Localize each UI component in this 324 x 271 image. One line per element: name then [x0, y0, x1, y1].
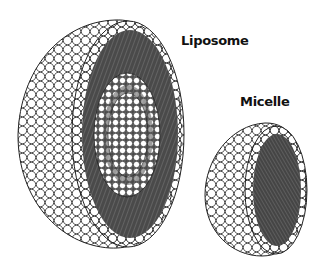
micelle-illustration	[205, 123, 307, 256]
diagram-canvas	[0, 0, 324, 271]
liposome-illustration	[18, 20, 184, 248]
micelle-tail-core	[253, 134, 301, 246]
liposome-label: Liposome	[181, 33, 249, 48]
micelle-label: Micelle	[240, 94, 290, 109]
liposome-cavity	[108, 93, 148, 177]
